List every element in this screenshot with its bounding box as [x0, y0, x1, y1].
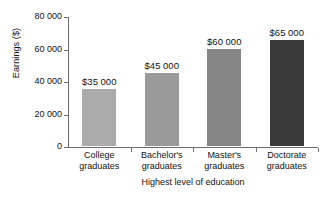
y-axis-tick-labels: 020 00040 00060 00080 000 — [16, 0, 62, 197]
category-label-line: graduates — [64, 161, 134, 172]
bar[interactable] — [270, 40, 304, 146]
y-axis-tick-label: 80 000 — [16, 12, 62, 21]
bar-value-label: $45 000 — [127, 61, 197, 71]
category-label-line: Doctorate — [252, 150, 322, 161]
bar-value-label: $65 000 — [252, 28, 322, 38]
category-label-line: graduates — [127, 161, 197, 172]
x-axis-category-label: Bachelor'sgraduates — [127, 150, 197, 172]
y-axis-tick-mark — [64, 50, 68, 51]
y-axis-tick-label: 40 000 — [16, 77, 62, 86]
y-axis-tick-label: 0 — [16, 142, 62, 151]
x-axis-category-label: Collegegraduates — [64, 150, 134, 172]
bar[interactable] — [207, 49, 241, 147]
bar-value-label: $35 000 — [64, 77, 134, 87]
category-label-line: College — [64, 150, 134, 161]
y-axis-tick-mark — [64, 147, 68, 148]
x-axis-category-labels: CollegegraduatesBachelor'sgraduatesMaste… — [68, 150, 318, 176]
category-label-line: graduates — [252, 161, 322, 172]
y-axis-tick-label: 20 000 — [16, 110, 62, 119]
category-label-line: Master's — [189, 150, 259, 161]
category-label-line: Bachelor's — [127, 150, 197, 161]
y-axis-tick-label: 60 000 — [16, 45, 62, 54]
bar-chart-figure: Earnings ($) 020 00040 00060 00080 000 $… — [0, 0, 324, 197]
bar[interactable] — [82, 89, 116, 146]
plot-area: $35 000$45 000$60 000$65 000 — [68, 17, 318, 147]
x-axis-title: Highest level of education — [68, 177, 318, 187]
y-axis-tick-mark — [64, 17, 68, 18]
bar-value-label: $60 000 — [189, 37, 259, 47]
category-label-line: graduates — [189, 161, 259, 172]
y-axis-tick-mark — [64, 115, 68, 116]
x-axis-category-label: Doctorategraduates — [252, 150, 322, 172]
bar[interactable] — [145, 73, 179, 146]
x-axis-category-label: Master'sgraduates — [189, 150, 259, 172]
